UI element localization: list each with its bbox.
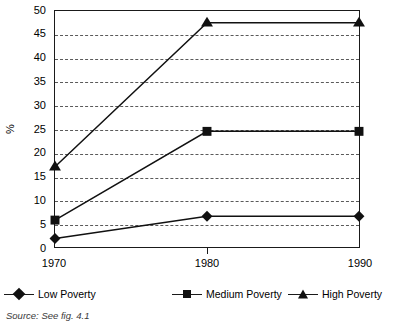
x-axis-tick-labels: 197019801990 — [0, 256, 400, 272]
y-tick-label: 10 — [34, 195, 46, 206]
y-axis-tick-labels: 50454035302520151050 — [18, 0, 50, 258]
legend-glyph — [183, 290, 191, 298]
data-point-marker — [353, 17, 365, 27]
x-tick-label: 1990 — [348, 256, 372, 270]
square-marker-icon — [172, 287, 202, 301]
y-tick-label: 20 — [34, 147, 46, 158]
source-note: Source: See fig. 4.1 — [6, 310, 89, 322]
chart-legend: Low PovertyMedium PovertyHigh Poverty — [0, 286, 400, 302]
series-layer — [55, 11, 359, 247]
plot-area — [54, 10, 360, 248]
x-tick — [207, 248, 208, 254]
legend-item-medium-poverty: Medium Poverty — [172, 286, 282, 302]
legend-label: Low Poverty — [34, 287, 96, 301]
legend-label: Medium Poverty — [202, 287, 282, 301]
x-axis-ticks — [54, 248, 360, 254]
data-point-marker — [354, 211, 365, 222]
y-tick-label: 5 — [40, 219, 46, 230]
y-tick-label: 40 — [34, 52, 46, 63]
data-point-marker — [50, 233, 61, 244]
diamond-marker-icon — [4, 287, 34, 301]
line-chart-figure: % 50454035302520151050 197019801990 Low … — [0, 0, 400, 322]
series-square — [51, 127, 364, 225]
series-diamond — [50, 211, 365, 244]
y-tick-label: 45 — [34, 28, 46, 39]
data-point-marker — [51, 216, 60, 225]
y-tick-label: 30 — [34, 100, 46, 111]
data-point-marker — [201, 17, 213, 27]
y-tick-label: 0 — [40, 243, 46, 254]
legend-glyph — [13, 288, 26, 301]
data-point-marker — [355, 127, 364, 136]
legend-item-low-poverty: Low Poverty — [4, 286, 96, 302]
y-tick-label: 15 — [34, 171, 46, 182]
y-tick-label: 25 — [34, 124, 46, 135]
x-tick-label: 1970 — [42, 256, 66, 270]
legend-label: High Poverty — [318, 287, 382, 301]
data-point-marker — [203, 127, 212, 136]
x-tick-label: 1980 — [195, 256, 219, 270]
series-line — [55, 23, 359, 167]
legend-glyph — [298, 290, 308, 299]
triangle-marker-icon — [288, 287, 318, 301]
data-point-marker — [202, 211, 213, 222]
y-tick-label: 50 — [34, 5, 46, 16]
series-triangle — [49, 17, 365, 171]
series-line — [55, 131, 359, 220]
y-tick-label: 35 — [34, 76, 46, 87]
legend-item-high-poverty: High Poverty — [288, 286, 382, 302]
